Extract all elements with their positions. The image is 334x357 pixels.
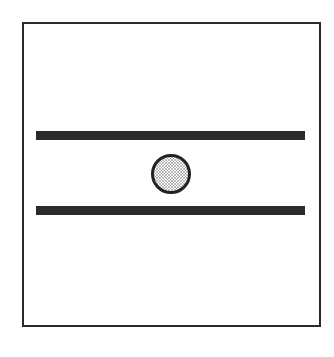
bottom-plate [36,206,305,215]
particle-circle [150,153,192,195]
top-plate [36,131,305,140]
particle-icon [150,153,192,195]
